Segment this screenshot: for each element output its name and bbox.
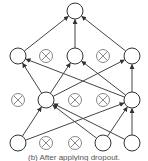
neuron-node (124, 48, 140, 64)
edge-arrow (53, 60, 124, 96)
neuron-node (67, 48, 83, 64)
neuron-node (38, 92, 54, 108)
edge-arrow (24, 16, 68, 51)
edge-arrow (82, 16, 126, 51)
dropped-unit-icon (97, 50, 110, 63)
dropped-unit-icon (97, 94, 110, 107)
dropped-unit-icon (69, 137, 82, 150)
dropped-unit-icon (40, 50, 53, 63)
edge-arrow (22, 107, 41, 136)
neuron-node (95, 135, 111, 151)
dropped-unit-icon (69, 94, 82, 107)
neuron-node (124, 92, 140, 108)
neuron-node (10, 48, 26, 64)
dropped-unit-icon (12, 94, 25, 107)
edges-group (22, 16, 132, 140)
neuron-node (124, 135, 140, 151)
network-diagram (0, 0, 148, 161)
neuron-node (67, 3, 83, 19)
edge-arrow (23, 63, 42, 93)
neuron-node (10, 135, 26, 151)
dropped-unit-icon (40, 137, 53, 150)
figure-caption: (b) After applying dropout. (0, 153, 148, 161)
edge-arrow (54, 104, 125, 140)
